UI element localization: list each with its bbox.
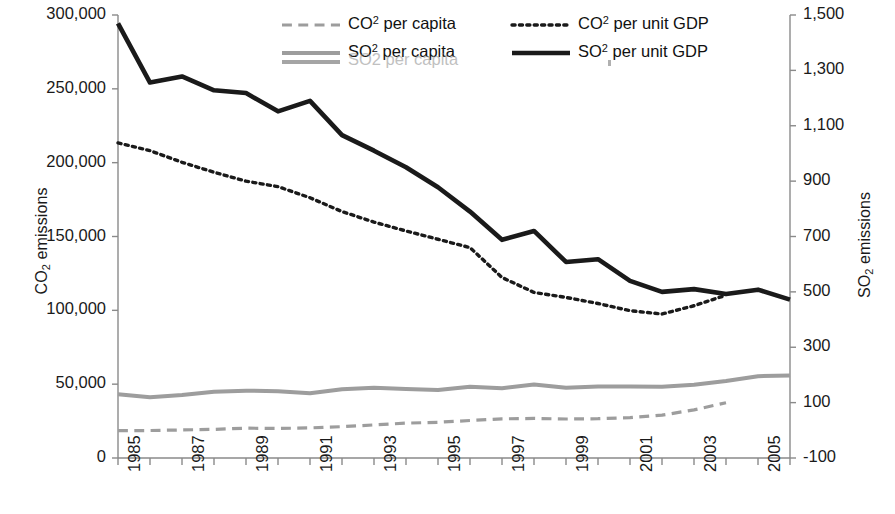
data-series-line-3 <box>118 143 726 314</box>
y-axis-right-tick-label: 300 <box>803 336 873 355</box>
x-axis-tick-label: 1985 <box>125 435 144 472</box>
legend-label-base: SO <box>578 42 602 60</box>
x-axis-tick-label: 1993 <box>381 435 400 472</box>
legend-label-base: CO <box>348 14 373 32</box>
legend-label-superscript: 2 <box>603 14 609 26</box>
legend-label-1: CO2 per capita <box>348 14 456 33</box>
x-axis-tick-label: 1991 <box>317 435 336 472</box>
legend-label-tail: per unit GDP <box>608 42 708 60</box>
legend-label-3: CO2 per unit GDP <box>578 14 709 33</box>
legend-label-base: CO <box>578 14 603 32</box>
y-axis-right-tick-label: 700 <box>803 226 873 245</box>
y-axis-right-title-sub: 2 <box>863 269 875 275</box>
x-axis-tick-label: 1987 <box>189 435 208 472</box>
legend-label-superscript: 2 <box>373 14 379 26</box>
legend-label-4: SO2 per unit GDP <box>578 42 708 61</box>
data-series-layer <box>118 23 790 430</box>
y-axis-right-tick-label: 100 <box>803 392 873 411</box>
legend-label-tail: per unit GDP <box>609 14 709 32</box>
y-axis-left-tick-label: 250,000 <box>10 78 106 97</box>
chart-figure: CO2 emissions SO2 emissions 050,000100,0… <box>0 0 895 514</box>
y-axis-left-title-sub: 2 <box>40 264 52 270</box>
axis-tick-marks <box>112 15 796 465</box>
data-series-line-1 <box>118 403 726 431</box>
legend-ghost-artifact: SO2 per capita <box>348 50 458 69</box>
y-axis-right-tick-label: 1,500 <box>803 4 873 23</box>
x-axis-tick-label: 2003 <box>701 435 720 472</box>
x-axis-tick-label: 1989 <box>253 435 272 472</box>
legend-label-tail: per capita <box>379 14 456 32</box>
y-axis-left-title-base: CO <box>33 270 50 294</box>
data-series-line-2 <box>118 376 790 398</box>
y-axis-right-tick-label: -100 <box>803 447 873 466</box>
y-axis-right-tick-label: 900 <box>803 170 873 189</box>
x-axis-tick-label: 2001 <box>637 435 656 472</box>
x-axis-tick-label: 1997 <box>509 435 528 472</box>
y-axis-right-tick-label: 1,300 <box>803 59 873 78</box>
y-axis-left-tick-label: 0 <box>10 447 106 466</box>
y-axis-right-tick-label: 500 <box>803 281 873 300</box>
x-axis-tick-label: 1995 <box>445 435 464 472</box>
x-axis-tick-label: 1999 <box>573 435 592 472</box>
y-axis-left-tick-label: 100,000 <box>10 299 106 318</box>
y-axis-left-tick-label: 300,000 <box>10 4 106 23</box>
y-axis-left-tick-label: 150,000 <box>10 226 106 245</box>
y-axis-left-tick-label: 50,000 <box>10 373 106 392</box>
y-axis-left-tick-label: 200,000 <box>10 152 106 171</box>
x-axis-tick-label: 2005 <box>765 435 784 472</box>
legend-label-superscript: 2 <box>602 42 608 54</box>
y-axis-right-tick-label: 1,100 <box>803 115 873 134</box>
